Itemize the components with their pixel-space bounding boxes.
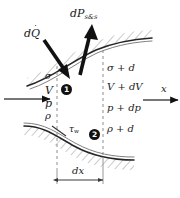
- shaft-shear-power-subscript: s&s: [84, 13, 97, 21]
- x-axis-label: x: [161, 84, 167, 94]
- outlet-pressure-label: p + dp: [107, 103, 141, 113]
- heat-transfer-prefix: d: [24, 27, 31, 40]
- outlet-velocity-label: V + dV: [107, 82, 143, 92]
- inlet-pressure-label: p: [45, 98, 52, 109]
- wall-shear-stress-label: τw: [69, 125, 79, 135]
- wall-shear-subscript: w: [74, 128, 79, 134]
- shaft-shear-power-prefix: d: [70, 7, 77, 20]
- heat-transfer-symbol: Q: [31, 27, 40, 40]
- inlet-density-label: ρ: [45, 111, 51, 121]
- station-marker-1: 1: [61, 84, 72, 95]
- inlet-sigma-label: σ: [45, 72, 51, 81]
- dx-length-label: dx: [72, 166, 84, 176]
- heat-transfer-symbol-accented: Q: [31, 28, 40, 39]
- overdot-icon: [35, 25, 37, 27]
- outlet-density-label: ρ + d: [107, 124, 134, 134]
- duct-control-volume-figure: dPs&s dQ σ V p ρ 1 2 τw σ + d V + dV p +…: [0, 0, 180, 198]
- heat-transfer-label: dQ: [24, 28, 40, 39]
- inlet-velocity-label: V: [45, 85, 53, 96]
- station-marker-2: 2: [89, 129, 100, 140]
- outlet-sigma-label: σ + d: [107, 63, 135, 73]
- shaft-shear-power-label: dPs&s: [70, 8, 98, 20]
